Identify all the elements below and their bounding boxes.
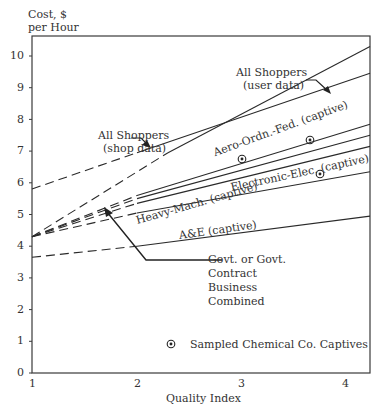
label-govt-l2: Contract xyxy=(208,267,257,280)
y-tick-6: 6 xyxy=(4,176,24,189)
x-tick-1: 1 xyxy=(29,377,36,390)
y-axis-label-line1: Cost, $ xyxy=(28,8,67,21)
x-axis-label: Quality Index xyxy=(166,392,241,405)
label-user-l1: All Shoppers xyxy=(236,66,307,79)
x-tick-3: 3 xyxy=(238,377,245,390)
label-govt-l4: Combined xyxy=(208,295,265,308)
label-shop-l2: (shop data) xyxy=(103,142,166,155)
label-user-l2: (user data) xyxy=(243,79,304,92)
y-tick-3: 3 xyxy=(4,271,24,284)
legend-sampled-captives: Sampled Chemical Co. Captives xyxy=(190,338,368,351)
y-axis-label-line2: per Hour xyxy=(28,21,79,34)
x-tick-2: 2 xyxy=(134,377,141,390)
y-tick-8: 8 xyxy=(4,113,24,126)
y-tick-9: 9 xyxy=(4,81,24,94)
x-tick-4: 4 xyxy=(342,377,349,390)
y-tick-2: 2 xyxy=(4,303,24,316)
arrowhead-govt xyxy=(104,207,113,217)
y-tick-0: 0 xyxy=(4,366,24,379)
y-tick-5: 5 xyxy=(4,208,24,221)
y-tick-1: 1 xyxy=(4,334,24,347)
series-heavy-mach xyxy=(32,135,370,236)
label-govt-l1: Govt. or Govt. xyxy=(208,253,286,266)
label-govt-l3: Business xyxy=(208,281,257,294)
y-tick-7: 7 xyxy=(4,144,24,157)
label-shop-l1: All Shoppers xyxy=(98,129,169,142)
y-tick-4: 4 xyxy=(4,239,24,252)
y-tick-10: 10 xyxy=(4,49,24,62)
